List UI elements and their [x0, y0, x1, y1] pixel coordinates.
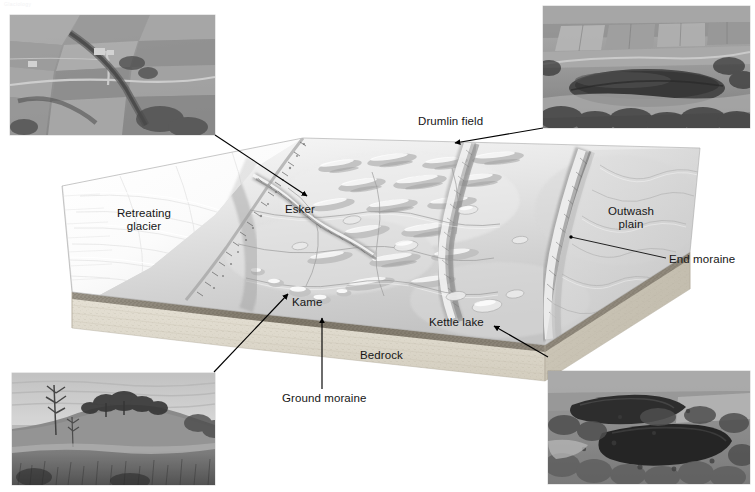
leader-drumlin-line: [455, 128, 543, 143]
end-moraine-leader-dot: [569, 235, 572, 238]
label-outwash-plain: Outwash plain: [596, 205, 666, 231]
leader-kettle-line: [494, 326, 548, 357]
label-retreating-glacier: Retreating glacier: [108, 207, 180, 233]
leader-end-moraine-line: [571, 237, 666, 258]
glacial-landforms-figure: Glaciology: [0, 0, 755, 492]
label-kame: Kame: [292, 296, 322, 309]
leader-esker-line: [215, 135, 307, 196]
esker-photo: [10, 15, 215, 135]
label-bedrock: Bedrock: [360, 349, 403, 362]
leader-kame-line: [214, 294, 288, 372]
label-ground-moraine: Ground moraine: [282, 392, 367, 405]
label-kettle-lake: Kettle lake: [429, 316, 484, 329]
label-drumlin-field: Drumlin field: [418, 115, 483, 128]
kame-photo: [12, 373, 215, 485]
label-esker: Esker: [285, 203, 315, 216]
label-end-moraine: End moraine: [669, 253, 735, 266]
drumlin-photo: [543, 6, 750, 128]
kettle-photo: [548, 371, 750, 484]
